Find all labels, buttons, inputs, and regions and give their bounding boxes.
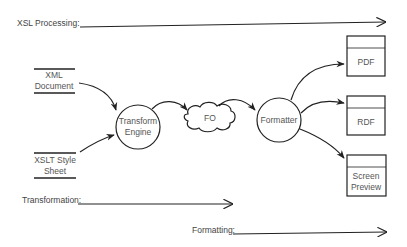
phase-xsl-processing: XSL Processing: [17, 18, 386, 28]
phase-arrow [80, 22, 386, 27]
process-transform-engine: Transform Engine [116, 105, 160, 149]
output-rdf: RDF [347, 96, 385, 135]
arrow-transform-to-fo [152, 102, 187, 110]
svg-text:Screen: Screen [353, 171, 380, 181]
arrow-formatter-to-screen-preview [300, 129, 344, 158]
svg-text:XSLT Style: XSLT Style [34, 155, 76, 165]
svg-text:Sheet: Sheet [44, 166, 67, 176]
svg-text:Transform: Transform [119, 116, 157, 126]
phase-label-formatting: Formatting: [192, 225, 235, 235]
arrow-xml-to-transform [79, 83, 116, 110]
svg-text:XML: XML [45, 70, 63, 80]
input-xslt-style-sheet: XSLT Style Sheet [34, 153, 76, 178]
output-screen-preview: Screen Preview [347, 155, 386, 196]
svg-text:Document: Document [35, 81, 74, 91]
svg-text:RDF: RDF [357, 117, 374, 127]
phase-label-transformation: Transformation: [22, 195, 81, 205]
phase-formatting: Formatting: [192, 225, 387, 235]
svg-text:Preview: Preview [351, 182, 382, 192]
phase-label-xsl-processing: XSL Processing: [17, 18, 80, 28]
svg-text:Formatter: Formatter [261, 115, 298, 125]
output-pdf: PDF [347, 36, 385, 76]
process-formatter: Formatter [257, 98, 301, 142]
arrow-formatter-to-rdf [301, 101, 344, 113]
svg-text:Engine: Engine [125, 127, 152, 137]
phase-arrow [233, 232, 387, 234]
intermediate-fo-cloud: FO [184, 102, 235, 131]
input-xml-document: XML Document [34, 69, 75, 93]
svg-text:FO: FO [204, 113, 216, 123]
arrow-formatter-to-pdf [291, 64, 344, 100]
phase-transformation: Transformation: [22, 195, 233, 205]
svg-text:PDF: PDF [358, 57, 375, 67]
arrow-xslt-to-transform [80, 135, 114, 152]
xsl-processing-diagram: XSL Processing: XML Document XSLT Style … [0, 0, 407, 247]
